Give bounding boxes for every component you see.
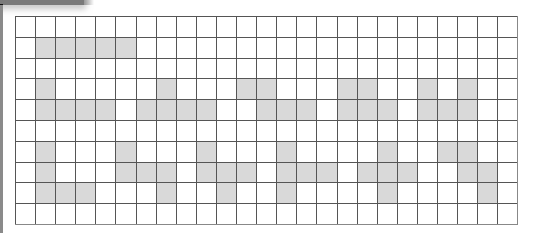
grid-cell[interactable] (296, 182, 316, 203)
grid-cell[interactable] (15, 203, 35, 224)
grid-cell[interactable] (477, 58, 497, 79)
grid-cell[interactable] (337, 58, 357, 79)
grid-cell[interactable] (75, 203, 95, 224)
grid-cell[interactable] (397, 58, 417, 79)
grid-cell-filled[interactable] (357, 99, 377, 120)
grid-cell[interactable] (196, 203, 216, 224)
grid-cell[interactable] (497, 120, 517, 141)
grid-cell[interactable] (256, 162, 276, 183)
grid-cell[interactable] (156, 37, 176, 58)
grid-cell-filled[interactable] (35, 162, 55, 183)
grid-cell-filled[interactable] (457, 141, 477, 162)
grid-cell[interactable] (176, 58, 196, 79)
grid-cell-filled[interactable] (136, 162, 156, 183)
grid-cell-filled[interactable] (477, 162, 497, 183)
grid-cell[interactable] (477, 141, 497, 162)
grid-cell[interactable] (437, 182, 457, 203)
grid-cell[interactable] (95, 203, 115, 224)
grid-cell[interactable] (95, 16, 115, 37)
grid-cell[interactable] (497, 141, 517, 162)
grid-cell[interactable] (296, 16, 316, 37)
grid-cell[interactable] (216, 99, 236, 120)
grid-cell[interactable] (216, 78, 236, 99)
grid-cell[interactable] (437, 37, 457, 58)
grid-cell[interactable] (457, 16, 477, 37)
grid-cell[interactable] (156, 203, 176, 224)
grid-cell-filled[interactable] (115, 162, 135, 183)
grid-cell[interactable] (377, 203, 397, 224)
grid-cell-filled[interactable] (377, 141, 397, 162)
grid-cell-filled[interactable] (457, 162, 477, 183)
grid-cell[interactable] (337, 203, 357, 224)
grid-cell-filled[interactable] (296, 162, 316, 183)
grid-cell-filled[interactable] (95, 37, 115, 58)
grid-cell[interactable] (176, 120, 196, 141)
grid-cell[interactable] (136, 16, 156, 37)
grid-cell-filled[interactable] (457, 78, 477, 99)
grid-cell[interactable] (75, 162, 95, 183)
grid-cell[interactable] (357, 16, 377, 37)
grid-cell-filled[interactable] (236, 162, 256, 183)
grid-cell[interactable] (55, 141, 75, 162)
grid-cell[interactable] (316, 99, 336, 120)
grid-cell-filled[interactable] (136, 99, 156, 120)
grid-cell[interactable] (457, 58, 477, 79)
grid-cell[interactable] (377, 120, 397, 141)
grid-cell[interactable] (276, 78, 296, 99)
grid-cell[interactable] (75, 16, 95, 37)
grid-cell-filled[interactable] (75, 37, 95, 58)
grid-cell[interactable] (95, 182, 115, 203)
grid-cell[interactable] (256, 141, 276, 162)
grid-cell-filled[interactable] (417, 99, 437, 120)
grid-cell[interactable] (477, 203, 497, 224)
grid-cell[interactable] (497, 203, 517, 224)
grid-cell[interactable] (417, 162, 437, 183)
grid-cell[interactable] (236, 120, 256, 141)
grid-cell[interactable] (115, 99, 135, 120)
grid-cell[interactable] (316, 16, 336, 37)
grid-cell[interactable] (95, 141, 115, 162)
grid-cell[interactable] (357, 141, 377, 162)
grid-cell-filled[interactable] (75, 99, 95, 120)
grid-cell[interactable] (377, 16, 397, 37)
grid-cell[interactable] (457, 182, 477, 203)
grid-cell[interactable] (75, 78, 95, 99)
grid-cell[interactable] (176, 16, 196, 37)
grid-cell[interactable] (196, 37, 216, 58)
grid-cell[interactable] (115, 182, 135, 203)
grid-cell[interactable] (115, 203, 135, 224)
grid-cell[interactable] (176, 141, 196, 162)
grid-cell[interactable] (316, 141, 336, 162)
grid-cell[interactable] (236, 203, 256, 224)
grid-cell[interactable] (136, 78, 156, 99)
grid-cell[interactable] (417, 203, 437, 224)
grid-cell[interactable] (296, 58, 316, 79)
grid-cell[interactable] (296, 37, 316, 58)
grid-cell-filled[interactable] (377, 162, 397, 183)
grid-cell[interactable] (136, 203, 156, 224)
grid-cell-filled[interactable] (156, 78, 176, 99)
grid-cell-filled[interactable] (276, 99, 296, 120)
grid-cell[interactable] (276, 120, 296, 141)
grid-cell[interactable] (156, 141, 176, 162)
grid-cell[interactable] (457, 120, 477, 141)
grid-cell-filled[interactable] (156, 99, 176, 120)
grid-cell[interactable] (377, 78, 397, 99)
grid-cell[interactable] (457, 37, 477, 58)
grid-cell[interactable] (397, 203, 417, 224)
grid-cell[interactable] (296, 141, 316, 162)
grid-cell[interactable] (497, 162, 517, 183)
grid-cell[interactable] (357, 182, 377, 203)
grid-cell[interactable] (437, 16, 457, 37)
grid-cell-filled[interactable] (35, 78, 55, 99)
grid-cell[interactable] (316, 78, 336, 99)
grid-cell-filled[interactable] (196, 99, 216, 120)
grid-cell[interactable] (477, 99, 497, 120)
grid-cell-filled[interactable] (437, 141, 457, 162)
grid-cell[interactable] (417, 141, 437, 162)
grid-cell[interactable] (497, 99, 517, 120)
grid-cell[interactable] (216, 37, 236, 58)
grid-cell[interactable] (377, 37, 397, 58)
grid-cell[interactable] (196, 120, 216, 141)
grid-cell[interactable] (236, 99, 256, 120)
